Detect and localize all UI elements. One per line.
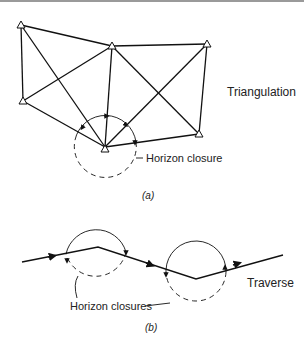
triangulation-label: Triangulation — [227, 85, 296, 99]
caption-a: (a) — [142, 190, 154, 201]
caption-b: (b) — [145, 322, 157, 333]
triangulation-network — [21, 25, 207, 147]
traverse-label: Traverse — [247, 276, 294, 290]
horizon-closures-label: Horizon closures — [70, 300, 152, 312]
survey-diagram — [0, 0, 304, 344]
horizon-closure-label: Horizon closure — [146, 152, 222, 164]
traverse-path — [22, 247, 283, 279]
horizon-closure-circles-b — [66, 230, 226, 306]
